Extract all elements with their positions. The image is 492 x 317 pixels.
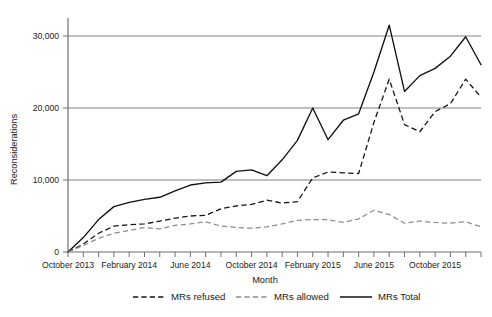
series-line-mrs-allowed	[68, 210, 481, 252]
x-axis-title: Month	[252, 275, 278, 285]
x-tick-label: June 2014	[170, 260, 210, 270]
x-tick-label: June 2015	[354, 260, 394, 270]
legend-label-mrs-allowed: MRs allowed	[274, 291, 329, 302]
y-tick-label: 20,000	[33, 103, 60, 113]
x-tick-label: February 2014	[101, 260, 157, 270]
legend-label-mrs-total: MRs Total	[378, 291, 420, 302]
gridlines	[68, 36, 481, 180]
x-tick-label: October 2014	[226, 260, 278, 270]
y-tick-label: 10,000	[33, 175, 60, 185]
x-tick-label: October 2015	[409, 260, 461, 270]
chart-legend: MRs refusedMRs allowedMRs Total	[133, 291, 420, 302]
y-tick-label: 0	[54, 247, 59, 257]
x-tick-label: October 2013	[42, 260, 94, 270]
y-tick-marks	[63, 36, 68, 252]
series-line-mrs-refused	[68, 79, 481, 252]
y-tick-labels: 010,00020,00030,000	[33, 31, 60, 257]
reconsiderations-line-chart: 010,00020,00030,000 October 2013February…	[0, 0, 492, 317]
x-tick-labels: October 2013February 2014June 2014Octobe…	[42, 260, 461, 270]
y-axis-title: Reconsiderations	[9, 114, 19, 185]
x-tick-label: February 2015	[285, 260, 341, 270]
y-tick-label: 30,000	[33, 31, 60, 41]
legend-label-mrs-refused: MRs refused	[171, 291, 225, 302]
chart-canvas: 010,00020,00030,000 October 2013February…	[0, 0, 492, 317]
plot-series	[68, 25, 481, 252]
series-line-mrs-total	[68, 25, 481, 252]
x-tick-marks	[68, 252, 481, 257]
